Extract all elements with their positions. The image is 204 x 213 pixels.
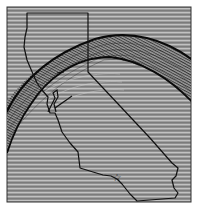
star-marker: ☆ bbox=[113, 172, 122, 183]
map-frame bbox=[7, 7, 191, 202]
california-fringe-map: ☆ bbox=[0, 0, 204, 213]
